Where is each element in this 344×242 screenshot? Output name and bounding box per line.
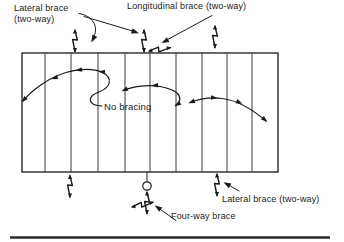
wave-arrowhead [211,95,218,100]
lateral-brace-icon-top-right [213,25,218,49]
bracing-diagram: Lateral brace (two-way) Longitudinal bra… [0,0,344,242]
label-four-way-brace: Four-way brace [171,211,236,222]
label-lateral-brace-top: Lateral brace (two-way) [14,3,68,25]
buckling-wave-right [190,98,266,121]
pointer-longitudinal [164,16,212,42]
pointer-arrowhead [160,37,169,45]
lateral-brace-icon-top-mid [142,29,147,53]
pointer-arrowhead [153,203,162,212]
wave-arrowhead [188,99,196,106]
four-way-brace-icon [130,191,154,215]
label-lateral-brace-top-line2: (two-way) [14,14,68,25]
pointer-lateral-top-straight [84,17,136,33]
diagram-canvas [0,0,344,242]
wave-arrowhead [151,83,158,88]
label-no-bracing: No bracing [104,101,151,112]
pointer-arrowhead [131,28,140,35]
lateral-brace-icon-top-left [73,29,78,53]
label-lateral-brace-bottom: Lateral brace (two-way) [222,194,319,205]
longitudinal-brace-icon [147,45,171,53]
wave-arrowhead [98,69,105,74]
label-longitudinal-brace: Longitudinal brace (two-way) [127,1,246,12]
label-lateral-brace-top-line1: Lateral brace [14,3,68,14]
buckling-wave-left [23,70,109,107]
joist-lines [45,53,252,172]
lateral-brace-icon-bottom-left [68,174,73,198]
lateral-brace-icon-bottom-right [215,173,220,197]
brace-point-marker [143,182,151,190]
pointer-arrowhead [222,180,231,188]
pointer-arrowhead [89,35,97,44]
wave-arrowhead [173,101,181,108]
